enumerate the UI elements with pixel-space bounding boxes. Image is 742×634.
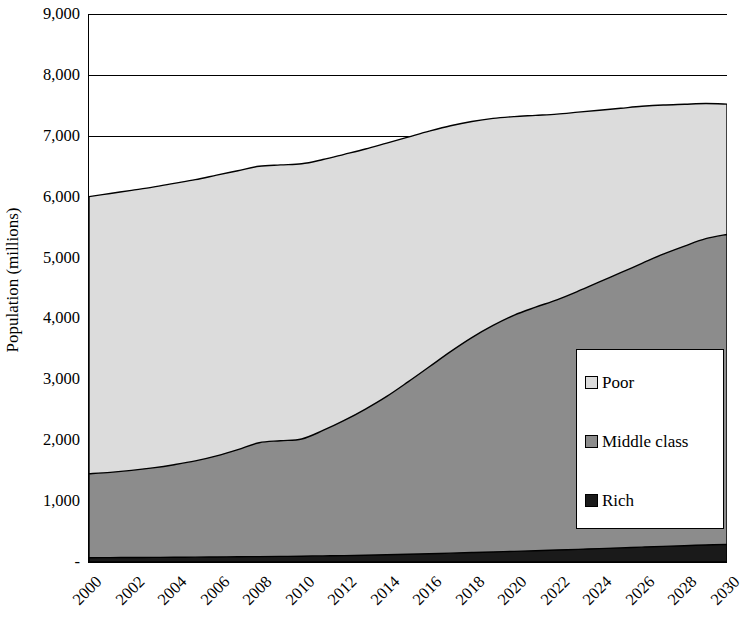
legend-item-middle-class: Middle class xyxy=(585,433,688,450)
y-tick-label: - xyxy=(4,554,80,570)
legend-label-rich: Rich xyxy=(602,492,634,509)
legend-swatch-poor xyxy=(585,376,598,389)
legend-swatch-middle-class xyxy=(585,435,598,448)
legend-item-poor: Poor xyxy=(585,374,634,391)
y-tick-label: 4,000 xyxy=(4,310,80,326)
y-tick-label: 9,000 xyxy=(4,6,80,22)
y-tick-label: 1,000 xyxy=(4,493,80,509)
y-tick-label: 2,000 xyxy=(4,432,80,448)
legend-label-middle-class: Middle class xyxy=(602,433,688,450)
legend: Poor Middle class Rich xyxy=(576,349,724,529)
legend-swatch-rich xyxy=(585,494,598,507)
y-tick-label: 5,000 xyxy=(4,250,80,266)
legend-item-rich: Rich xyxy=(585,492,634,509)
y-tick-label: 8,000 xyxy=(4,67,80,83)
legend-label-poor: Poor xyxy=(602,374,634,391)
y-tick-label: 3,000 xyxy=(4,371,80,387)
y-tick-label: 6,000 xyxy=(4,189,80,205)
population-stacked-area-chart: Population (millions) 9,0008,0007,0006,0… xyxy=(0,0,742,634)
y-tick-label: 7,000 xyxy=(4,128,80,144)
